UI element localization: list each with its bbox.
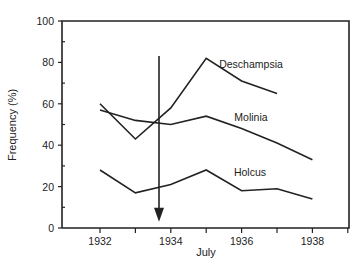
line-chart: 020406080100 1932193419361938 Deschampsi… [0, 0, 364, 270]
y-tick-label: 20 [42, 181, 54, 193]
x-tick-label: 1938 [301, 235, 325, 247]
series-labels: DeschampsiaMoliniaHolcus [219, 58, 283, 178]
series-line-holcus [100, 170, 312, 199]
series-line-deschampsia [100, 58, 277, 139]
y-tick-label: 40 [42, 139, 54, 151]
series-label-holcus: Holcus [234, 166, 266, 178]
series-lines [100, 58, 312, 199]
y-axis-label: Frequency (%) [6, 89, 18, 161]
arrow-annotation [154, 56, 164, 222]
y-tick-label: 0 [48, 222, 54, 234]
x-tick-label: 1934 [159, 235, 183, 247]
series-label-molinia: Molinia [234, 111, 267, 123]
y-axis: 020406080100 [36, 15, 65, 234]
y-tick-label: 60 [42, 98, 54, 110]
x-tick-label: 1936 [230, 235, 254, 247]
x-axis-label: July [196, 246, 216, 258]
x-axis: 1932193419361938 [88, 228, 347, 247]
arrow-head-icon [154, 208, 164, 222]
y-tick-label: 80 [42, 56, 54, 68]
y-tick-label: 100 [36, 15, 54, 27]
x-tick-label: 1932 [88, 235, 112, 247]
series-label-deschampsia: Deschampsia [219, 58, 283, 70]
